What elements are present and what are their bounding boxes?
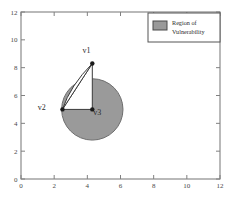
vertex-label-v3: v3 [93, 108, 101, 117]
y-tick-label: 0 [14, 176, 18, 184]
x-tick-label: 4 [86, 182, 90, 190]
x-tick-label: 6 [119, 182, 123, 190]
data-point-v2 [60, 107, 64, 111]
y-tick-label: 10 [11, 36, 19, 44]
legend-label-line2: Vulnerability [172, 28, 206, 35]
y-tick-label: 2 [14, 148, 18, 156]
y-tick-label: 4 [14, 120, 18, 128]
legend-label-line1: Region of [172, 19, 198, 26]
chart-figure: 024681012 024681012 v1v2v3 Region ofVuln… [0, 0, 233, 202]
x-tick-label: 12 [217, 182, 225, 190]
data-point-v1 [90, 61, 94, 65]
y-tick-label: 12 [11, 9, 19, 17]
chart-legend: Region ofVulnerability [148, 13, 220, 42]
x-tick-label: 10 [183, 182, 191, 190]
y-tick-label: 8 [14, 64, 18, 72]
x-tick-label: 0 [19, 182, 23, 190]
x-tick-label: 2 [52, 182, 56, 190]
x-tick-label: 8 [152, 182, 156, 190]
vertex-label-v1: v1 [83, 46, 91, 55]
vertex-label-v2: v2 [38, 103, 46, 112]
vulnerability-region-chart: 024681012 024681012 v1v2v3 Region ofVuln… [0, 0, 233, 202]
y-tick-label: 6 [14, 92, 18, 100]
legend-swatch [153, 21, 167, 30]
